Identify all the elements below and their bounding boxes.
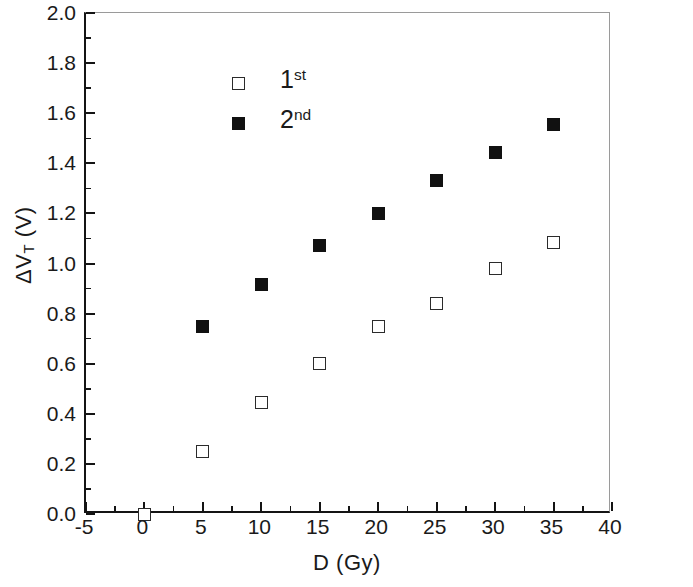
x-tick-major — [553, 502, 555, 511]
x-tick-label: 40 — [598, 516, 621, 537]
x-tick-label: -5 — [75, 516, 94, 537]
y-tick-label: 0.2 — [0, 452, 76, 473]
data-point-2nd — [313, 239, 326, 252]
x-tick-major — [377, 502, 379, 511]
data-point-1st — [255, 396, 268, 409]
y-tick-label: 0.0 — [0, 503, 76, 524]
x-tick-minor — [407, 506, 409, 511]
y-tick-minor — [86, 438, 91, 440]
x-tick-major — [202, 502, 204, 511]
y-tick-minor — [86, 138, 91, 140]
y-tick-label: 1.8 — [0, 52, 76, 73]
data-point-2nd — [489, 146, 502, 159]
y-tick-major — [86, 212, 95, 214]
data-point-1st — [196, 445, 209, 458]
y-tick-major — [86, 413, 95, 415]
x-tick-label: 5 — [195, 516, 207, 537]
x-tick-major — [319, 502, 321, 511]
y-tick-major — [86, 263, 95, 265]
x-axis-title: D (Gy) — [84, 550, 610, 576]
legend-superscript-nd: nd — [294, 106, 311, 123]
y-axis-subscript: T — [20, 244, 37, 254]
legend-item-2nd: 2nd — [232, 105, 382, 145]
legend-superscript-st: st — [294, 66, 306, 83]
data-point-2nd — [372, 207, 385, 220]
x-tick-major — [611, 502, 613, 511]
legend-item-1st: 1st — [232, 65, 382, 105]
x-tick-minor — [348, 506, 350, 511]
x-tick-major — [85, 502, 87, 511]
y-tick-label: 1.6 — [0, 102, 76, 123]
x-tick-major — [260, 502, 262, 511]
x-tick-minor — [465, 506, 467, 511]
data-point-2nd — [547, 118, 560, 131]
chart-legend: 1st 2nd — [232, 65, 382, 145]
y-tick-label: 0.6 — [0, 352, 76, 373]
legend-label-1st: 1st — [280, 67, 306, 92]
x-tick-minor — [114, 506, 116, 511]
y-tick-label: 2.0 — [0, 2, 76, 23]
data-point-2nd — [196, 320, 209, 333]
x-tick-label: 15 — [306, 516, 329, 537]
x-tick-label: 20 — [365, 516, 388, 537]
x-tick-minor — [290, 506, 292, 511]
y-tick-minor — [86, 488, 91, 490]
y-tick-major — [86, 363, 95, 365]
y-tick-label: 1.4 — [0, 152, 76, 173]
x-axis-tick-labels: -50510152025303540 — [84, 516, 610, 546]
y-tick-label: 0.4 — [0, 402, 76, 423]
y-tick-minor — [86, 87, 91, 89]
y-tick-minor — [86, 188, 91, 190]
y-tick-major — [86, 62, 95, 64]
x-tick-label: 35 — [540, 516, 563, 537]
y-tick-major — [86, 162, 95, 164]
x-tick-label: 0 — [137, 516, 149, 537]
legend-label-2nd: 2nd — [280, 107, 311, 132]
y-axis-title: ΔVT (V) — [11, 175, 37, 315]
y-tick-major — [86, 112, 95, 114]
y-tick-major — [86, 12, 95, 14]
data-point-1st — [547, 236, 560, 249]
y-tick-minor — [86, 338, 91, 340]
y-tick-minor — [86, 37, 91, 39]
x-tick-label: 30 — [481, 516, 504, 537]
x-tick-minor — [524, 506, 526, 511]
y-tick-minor — [86, 238, 91, 240]
x-tick-major — [436, 502, 438, 511]
chart-figure: 1st 2nd 0.00.20.40.60.81.01.21.41.61.82.… — [0, 0, 693, 587]
y-tick-major — [86, 313, 95, 315]
data-point-1st — [372, 320, 385, 333]
y-tick-minor — [86, 388, 91, 390]
x-tick-minor — [231, 506, 233, 511]
data-point-1st — [430, 297, 443, 310]
x-tick-label: 25 — [423, 516, 446, 537]
data-point-1st — [313, 357, 326, 370]
y-tick-major — [86, 463, 95, 465]
x-tick-label: 10 — [248, 516, 271, 537]
data-point-2nd — [430, 174, 443, 187]
x-tick-minor — [173, 506, 175, 511]
legend-marker-open-square — [232, 77, 245, 90]
x-tick-minor — [582, 506, 584, 511]
data-point-1st — [489, 262, 502, 275]
plot-area: 1st 2nd — [84, 12, 610, 513]
data-point-2nd — [255, 278, 268, 291]
y-tick-minor — [86, 288, 91, 290]
legend-marker-filled-square — [232, 117, 245, 130]
x-tick-major — [494, 502, 496, 511]
